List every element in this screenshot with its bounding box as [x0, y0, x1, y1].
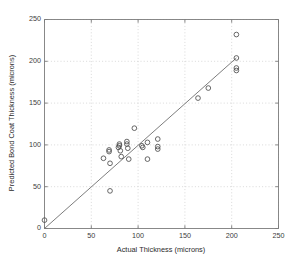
data-point: [206, 86, 211, 91]
data-point: [145, 157, 150, 162]
chart-figure: 050100150200250050100150200250 Actual Th…: [0, 0, 296, 262]
x-tick-label: 0: [43, 231, 47, 240]
scatter-plot: 050100150200250050100150200250 Actual Th…: [0, 0, 296, 262]
data-point: [101, 156, 106, 161]
x-tick-label: 150: [179, 231, 191, 240]
data-point: [140, 145, 145, 150]
y-tick-label: 200: [29, 56, 41, 65]
data-point: [126, 157, 131, 162]
data-point: [119, 154, 124, 159]
x-tick-label: 200: [226, 231, 238, 240]
reference-line-group: [45, 58, 237, 229]
y-tick-label: 250: [29, 14, 41, 23]
data-point: [234, 32, 239, 37]
y-axis-title: Predicted Bond Coat Thickness (microns): [7, 55, 16, 191]
y-tick-label: 50: [33, 182, 41, 191]
identity-reference-line: [45, 58, 237, 229]
y-tick-label: 150: [29, 98, 41, 107]
data-point: [145, 140, 150, 145]
y-tick-label: 100: [29, 140, 41, 149]
y-tick-label: 0: [37, 223, 41, 232]
x-tick-label: 100: [132, 231, 144, 240]
x-tick-label: 250: [273, 231, 285, 240]
x-axis-title: Actual Thickness (microns): [117, 245, 206, 254]
data-point: [108, 161, 113, 166]
data-points-group: [42, 32, 239, 222]
tick-labels-group: 050100150200250050100150200250: [29, 14, 285, 240]
data-point: [132, 126, 137, 131]
x-tick-label: 50: [87, 231, 95, 240]
data-point: [196, 96, 201, 101]
data-point: [155, 137, 160, 142]
data-point: [108, 189, 113, 194]
